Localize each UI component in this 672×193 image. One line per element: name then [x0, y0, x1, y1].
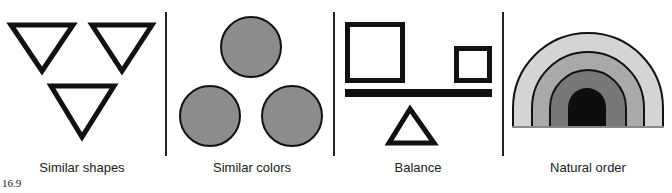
- small-square-icon: [457, 49, 490, 81]
- fulcrum-triangle-icon: [389, 109, 434, 143]
- large-square-icon: [348, 25, 403, 81]
- natural-order-label: Natural order: [550, 160, 626, 175]
- design-principles-figure: Similar shapes Similar colors Balance Na…: [0, 0, 672, 193]
- figure-number: 16.9: [2, 177, 21, 189]
- gray-circle-icon: [180, 86, 240, 146]
- similar-colors-label: Similar colors: [213, 160, 291, 175]
- balance-panel: [345, 25, 492, 144]
- inverted-triangle-icon: [92, 25, 152, 71]
- gray-circle-icon: [221, 17, 281, 77]
- natural-order-panel: [512, 33, 664, 127]
- arch-inner: [568, 88, 606, 127]
- similar-shapes-label: Similar shapes: [39, 160, 124, 175]
- gray-circle-icon: [262, 86, 322, 146]
- similar-shapes-panel: [11, 25, 152, 137]
- balance-label: Balance: [395, 160, 442, 175]
- inverted-triangle-icon: [51, 86, 114, 137]
- inverted-triangle-icon: [11, 25, 73, 71]
- similar-colors-panel: [180, 17, 322, 146]
- balance-bar: [345, 89, 492, 97]
